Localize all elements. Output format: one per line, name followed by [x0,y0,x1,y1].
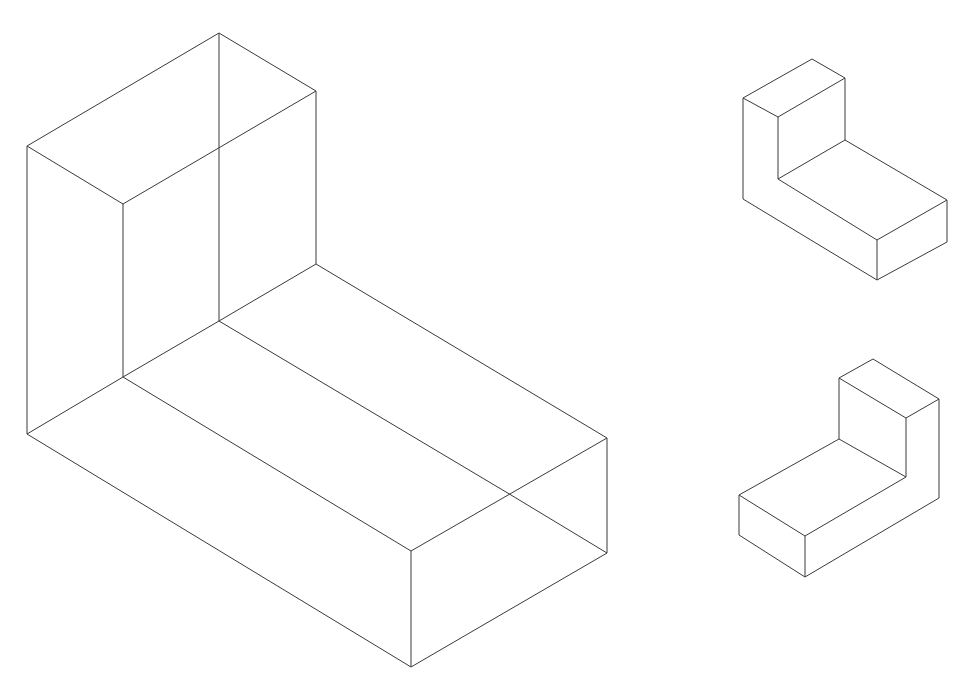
edge-line [219,321,511,495]
edge-line [123,321,219,377]
edge-line [27,434,411,667]
edge-line [778,78,845,117]
edge-line [219,33,316,91]
edge-line [739,495,805,536]
edge-line [906,399,939,418]
edge-line [877,242,947,280]
wireframe-l-block-large [27,33,607,667]
edge-line [27,377,123,434]
edge-line [739,439,839,495]
edge-line [743,59,812,98]
edge-line [739,535,805,577]
solid-l-block-view-2 [739,359,939,577]
edge-line [219,264,316,321]
edge-line [839,359,873,378]
edge-line [411,553,607,667]
edge-line [411,438,607,551]
edge-line [27,33,219,146]
solid-l-block-view-1 [743,59,947,280]
edge-line [123,377,411,551]
edge-line [27,146,123,204]
edge-line [812,59,845,78]
edge-line [839,439,906,477]
edge-line [316,264,607,438]
edge-line [877,200,947,240]
diagram-canvas [0,0,964,687]
edge-line [873,359,939,399]
edge-line [778,179,877,240]
edge-line [845,140,947,200]
edge-line [805,477,906,536]
edge-line [743,199,877,280]
edge-line [805,498,939,577]
edge-line [743,98,778,117]
edge-line [778,140,845,179]
edge-line [839,378,906,418]
edge-line [511,495,607,553]
